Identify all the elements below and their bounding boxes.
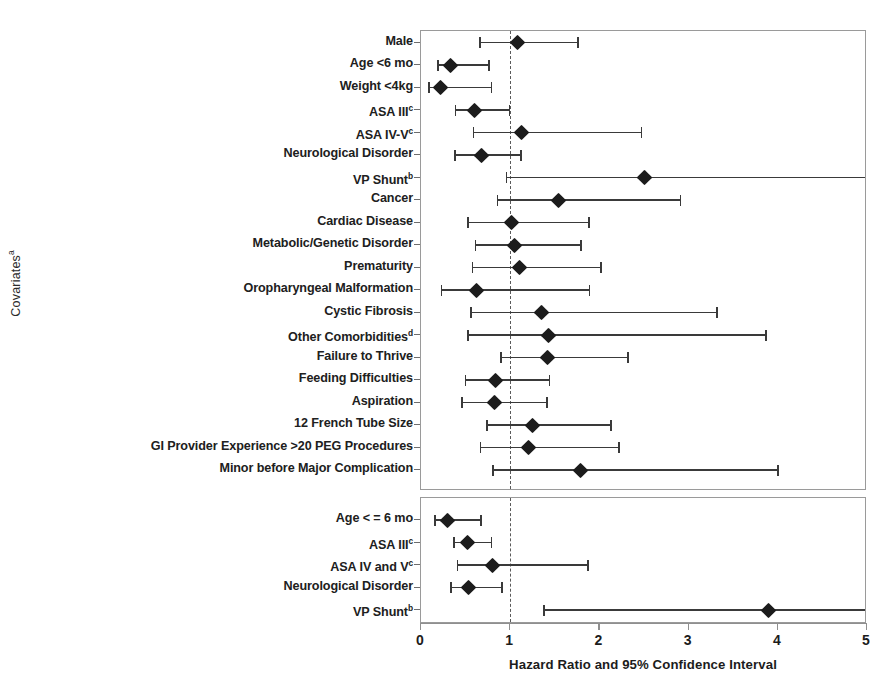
confidence-interval-line xyxy=(465,379,551,381)
category-label: Neurological Disorder xyxy=(284,147,413,160)
x-axis-tick xyxy=(688,623,689,630)
confidence-interval-line xyxy=(455,109,510,111)
x-axis-tick xyxy=(509,623,510,630)
category-label-text: Other Comorbidities xyxy=(288,330,408,344)
confidence-interval-cap-lower xyxy=(450,582,452,593)
category-label: Prematurity xyxy=(344,260,413,273)
confidence-interval-line xyxy=(457,564,589,566)
hazard-ratio-marker xyxy=(504,215,520,231)
confidence-interval-cap-upper xyxy=(600,262,602,273)
category-label-superscript: b xyxy=(408,171,413,181)
hazard-ratio-marker xyxy=(440,512,456,528)
y-axis-tick xyxy=(414,587,420,588)
category-label: VP Shuntb xyxy=(353,602,413,619)
confidence-interval-line xyxy=(497,199,682,201)
category-label-text: 12 French Tube Size xyxy=(294,416,413,430)
x-axis-tick-label: 2 xyxy=(594,632,602,648)
y-axis-tick xyxy=(414,609,420,610)
category-label: ASA IV and Vc xyxy=(330,557,413,574)
y-axis-tick xyxy=(414,357,420,358)
confidence-interval-line xyxy=(475,244,582,246)
y-axis-tick xyxy=(414,542,420,543)
confidence-interval-cap-upper xyxy=(501,582,503,593)
category-label-text: Male xyxy=(385,34,413,48)
x-axis-tick xyxy=(866,623,867,630)
confidence-interval-cap-lower xyxy=(453,537,455,548)
x-axis-tick-label: 4 xyxy=(773,632,781,648)
category-label-text: Cardiac Disease xyxy=(317,214,413,228)
category-label: Age <6 mo xyxy=(350,57,413,70)
category-label-text: Neurological Disorder xyxy=(284,146,413,160)
category-label: Failure to Thrive xyxy=(317,350,413,363)
y-axis-tick xyxy=(414,289,420,290)
category-label: Feeding Difficulties xyxy=(299,372,413,385)
hazard-ratio-marker xyxy=(474,147,490,163)
reference-line-hr-1 xyxy=(510,498,511,622)
category-label: Metabolic/Genetic Disorder xyxy=(253,237,413,250)
category-label: Weight <4kg xyxy=(340,80,413,93)
confidence-interval-cap-upper xyxy=(716,307,718,318)
y-axis-tick xyxy=(414,424,420,425)
x-axis-label: Hazard Ratio and 95% Confidence Interval xyxy=(420,657,866,672)
confidence-interval-cap-lower xyxy=(467,330,469,341)
confidence-interval-line xyxy=(473,132,642,134)
y-axis-tick xyxy=(414,519,420,520)
confidence-interval-line xyxy=(500,357,628,359)
confidence-interval-cap-upper xyxy=(641,127,643,138)
category-label-text: Oropharyngeal Malformation xyxy=(243,281,413,295)
category-label: Oropharyngeal Malformation xyxy=(243,282,413,295)
confidence-interval-cap-upper xyxy=(588,217,590,228)
hazard-ratio-marker xyxy=(467,102,483,118)
category-label: Other Comorbiditiesd xyxy=(288,327,413,344)
confidence-interval-cap-upper xyxy=(549,375,551,386)
hazard-ratio-marker xyxy=(534,305,550,321)
confidence-interval-cap-lower xyxy=(473,127,475,138)
confidence-interval-cap-upper xyxy=(488,60,490,71)
confidence-interval-cap-lower xyxy=(492,465,494,476)
y-axis-tick xyxy=(414,132,420,133)
category-label-text: Cancer xyxy=(371,191,413,205)
y-axis-tick xyxy=(414,154,420,155)
confidence-interval-cap-lower xyxy=(480,442,482,453)
confidence-interval-cap-lower xyxy=(428,82,430,93)
confidence-interval-cap-upper xyxy=(680,195,682,206)
hazard-ratio-marker xyxy=(486,395,502,411)
category-label-text: Weight <4kg xyxy=(340,79,413,93)
y-axis-tick xyxy=(414,469,420,470)
confidence-interval-cap-upper xyxy=(491,537,493,548)
confidence-interval-line xyxy=(470,312,718,314)
confidence-interval-cap-lower xyxy=(457,560,459,571)
hazard-ratio-marker xyxy=(511,260,527,276)
confidence-interval-line xyxy=(480,447,620,449)
category-label-text: ASA III xyxy=(369,105,408,119)
category-label: ASA IIIc xyxy=(369,535,413,552)
category-label: Neurological Disorder xyxy=(284,580,413,593)
confidence-interval-cap-lower xyxy=(500,352,502,363)
hazard-ratio-marker xyxy=(433,80,449,96)
y-axis-tick xyxy=(414,244,420,245)
category-label-superscript: c xyxy=(408,558,413,568)
confidence-interval-line xyxy=(467,334,767,336)
category-label: ASA IV-Vc xyxy=(356,125,413,142)
confidence-interval-cap-upper xyxy=(627,352,629,363)
category-label: Cardiac Disease xyxy=(317,215,413,228)
category-label-text: ASA IV-V xyxy=(356,128,409,142)
confidence-interval-cap-lower xyxy=(461,397,463,408)
confidence-interval-cap-upper xyxy=(618,442,620,453)
confidence-interval-line xyxy=(479,42,579,44)
category-label-superscript: c xyxy=(408,103,413,113)
category-label-superscript: b xyxy=(408,603,413,613)
confidence-interval-cap-lower xyxy=(437,60,439,71)
y-axis-tick xyxy=(414,64,420,65)
confidence-interval-cap-upper xyxy=(546,397,548,408)
confidence-interval-line xyxy=(461,402,548,404)
category-label-text: Cystic Fibrosis xyxy=(324,304,413,318)
y-axis-tick xyxy=(414,564,420,565)
x-axis-tick-label: 3 xyxy=(684,632,692,648)
y-axis-tick xyxy=(414,447,420,448)
category-label-text: Prematurity xyxy=(344,259,413,273)
category-label-text: VP Shunt xyxy=(353,605,408,619)
category-label-text: Failure to Thrive xyxy=(317,349,413,363)
category-label: Aspiration xyxy=(352,395,413,408)
y-axis-tick xyxy=(414,267,420,268)
